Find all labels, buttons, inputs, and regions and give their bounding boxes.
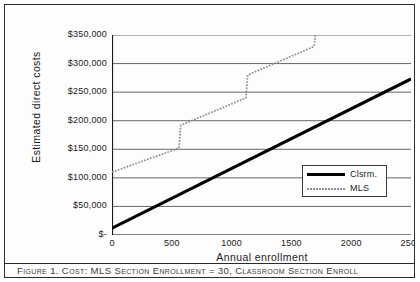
y-tick-label: $50,000 <box>43 200 107 210</box>
legend-label-mls: MLS <box>350 183 369 193</box>
series-line-mls <box>112 35 315 172</box>
chart-legend: Clsrm. MLS <box>302 165 387 197</box>
figure-caption: Figure 1. Cost: MLS Section Enrollment =… <box>17 265 358 276</box>
y-tick-label: $200,000 <box>43 115 107 125</box>
x-tick-label: 1500 <box>281 238 302 248</box>
x-tick-label: 2000 <box>341 238 362 248</box>
x-tick-label: 2500 <box>401 238 414 248</box>
y-tick-label: $300,000 <box>43 58 107 68</box>
x-tick-label: 1000 <box>221 238 242 248</box>
x-tick-label: 0 <box>109 238 114 248</box>
y-tick-label: $150,000 <box>43 143 107 153</box>
legend-line-icon-mls <box>307 184 345 192</box>
figure-frame: Estimated direct costs $-$50,000$100,000… <box>4 4 415 278</box>
legend-line-icon-clsrm <box>307 170 345 178</box>
series-line-clsrm <box>112 79 411 228</box>
y-tick-label: $- <box>43 229 107 239</box>
legend-item-clsrm: Clsrm. <box>307 169 382 180</box>
y-tick-label: $250,000 <box>43 86 107 96</box>
y-tick-label: $100,000 <box>43 172 107 182</box>
x-axis-tick-labels: 05001000150020002500 <box>112 238 412 252</box>
plot-area <box>112 35 411 235</box>
x-tick-label: 500 <box>164 238 180 248</box>
x-axis-title: Annual enrollment <box>112 251 412 263</box>
legend-item-mls: MLS <box>307 183 382 194</box>
chart-panel: Estimated direct costs $-$50,000$100,000… <box>5 5 414 264</box>
legend-label-clsrm: Clsrm. <box>350 169 377 179</box>
y-axis-tick-labels: $-$50,000$100,000$150,000$200,000$250,00… <box>41 5 107 264</box>
chart-canvas <box>112 35 411 235</box>
y-tick-label: $350,000 <box>43 29 107 39</box>
figure-caption-band: Figure 1. Cost: MLS Section Enrollment =… <box>5 265 414 278</box>
